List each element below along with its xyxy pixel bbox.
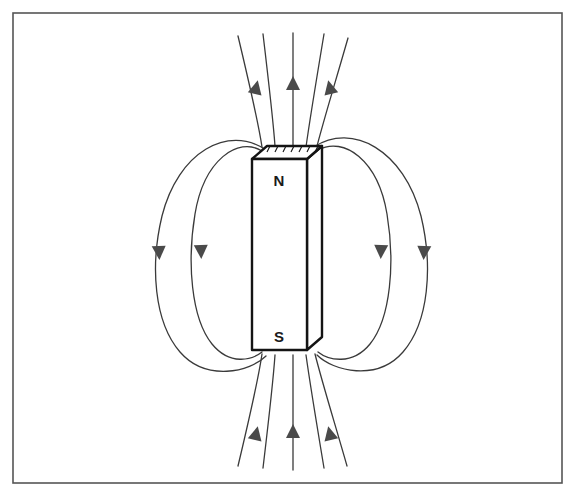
magnetic-field-figure: N S: [0, 0, 575, 496]
magnet-south-pole-label: S: [274, 328, 284, 345]
bar-magnet: N S: [252, 146, 322, 350]
figure-canvas: N S: [0, 0, 575, 496]
magnet-north-pole-label: N: [274, 172, 285, 189]
magnet-side-face: [307, 146, 322, 350]
